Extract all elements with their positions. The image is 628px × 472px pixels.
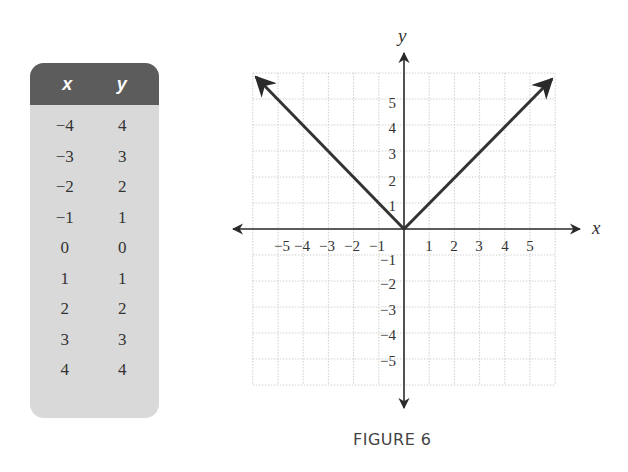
y-tick: −1: [380, 252, 396, 268]
x-tick: −5: [274, 238, 290, 254]
x-tick: 2: [450, 238, 458, 254]
y-tick: 3: [389, 146, 397, 162]
x-tick: 1: [425, 238, 433, 254]
x-tick: 5: [526, 238, 534, 254]
x-tick: −4: [294, 238, 310, 254]
y-tick: 5: [389, 95, 397, 111]
figure-caption: FIGURE 6: [353, 430, 432, 449]
y-tick: −4: [380, 327, 396, 343]
y-tick: 1: [389, 198, 397, 214]
y-tick: −3: [380, 302, 396, 318]
x-tick: −2: [344, 238, 360, 254]
x-tick: 4: [501, 238, 509, 254]
y-tick-labels: 1 2 3 4 5 −1 −2 −3 −4 −5: [380, 95, 396, 369]
x-axis-label: x: [591, 217, 601, 238]
y-tick: −5: [380, 353, 396, 369]
y-axis-label: y: [396, 25, 407, 46]
y-tick: −2: [380, 276, 396, 292]
x-tick: 3: [475, 238, 483, 254]
y-tick: 4: [389, 120, 397, 136]
x-tick: −3: [319, 238, 335, 254]
coordinate-graph: x y −5 −4 −3 −2 −1 1 2 3 4 5 1 2 3 4 5 −…: [0, 0, 628, 472]
y-tick: 2: [389, 173, 397, 189]
